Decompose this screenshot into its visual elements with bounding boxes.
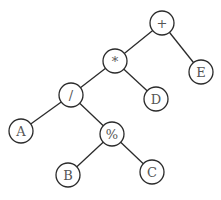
node-label: + bbox=[157, 16, 168, 31]
tree-node-times: * bbox=[103, 49, 127, 73]
node-label: C bbox=[147, 165, 157, 180]
node-label: E bbox=[196, 65, 206, 80]
tree-node-E: E bbox=[189, 60, 213, 84]
tree-edges bbox=[21, 23, 201, 175]
tree-node-C: C bbox=[140, 160, 164, 184]
tree-node-A: A bbox=[9, 119, 33, 143]
tree-node-divide: / bbox=[59, 83, 83, 107]
tree-node-B: B bbox=[56, 163, 80, 187]
node-label: % bbox=[106, 127, 118, 142]
node-label: / bbox=[69, 88, 74, 103]
node-label: * bbox=[112, 54, 119, 69]
tree-node-plus: + bbox=[150, 11, 174, 35]
node-label: A bbox=[15, 124, 26, 139]
tree-node-mod: % bbox=[100, 122, 124, 146]
node-label: B bbox=[63, 168, 73, 183]
node-label: D bbox=[151, 92, 161, 107]
tree-node-D: D bbox=[144, 87, 168, 111]
tree-nodes: +*E/DA%BC bbox=[9, 11, 213, 187]
expression-tree-diagram: +*E/DA%BC bbox=[0, 0, 221, 200]
